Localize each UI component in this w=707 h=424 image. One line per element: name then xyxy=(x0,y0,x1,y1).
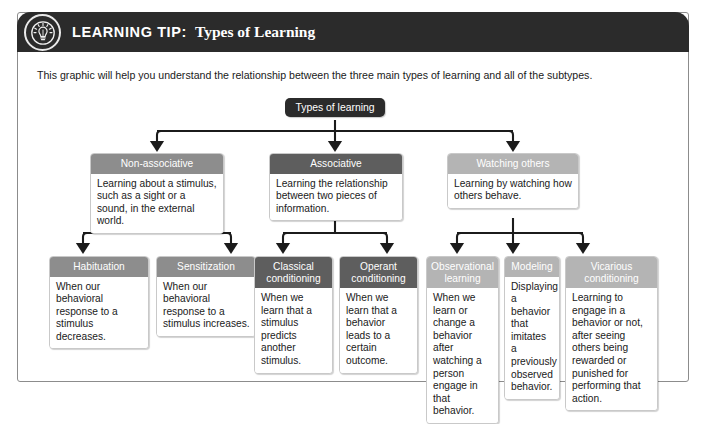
node-modeling-title: Modeling xyxy=(505,257,559,277)
node-operant-conditioning[interactable]: Operant conditioning When we learn that … xyxy=(339,256,418,374)
node-habituation-title: Habituation xyxy=(50,257,148,277)
types-of-learning-diagram: Types of learning Non-associative Learni… xyxy=(17,12,689,382)
node-associative-title: Associative xyxy=(270,154,402,174)
node-observational-learning-body: When we learn or change a behavior after… xyxy=(427,288,498,423)
node-modeling-body: Displaying a behavior that imitates a pr… xyxy=(505,277,559,399)
node-non-associative-title: Non-associative xyxy=(91,154,223,174)
node-watching-others-body: Learning by watching how others behave. xyxy=(448,174,578,208)
node-watching-others-title: Watching others xyxy=(448,154,578,174)
node-classical-conditioning-body: When we learn that a stimulus predicts a… xyxy=(255,288,332,373)
node-sensitization-body: When our behavioral response to a stimul… xyxy=(157,277,255,336)
node-non-associative-body: Learning about a stimulus, such as a sig… xyxy=(91,174,223,233)
node-observational-learning[interactable]: Observational learning When we learn or … xyxy=(426,256,499,424)
node-vicarious-conditioning-body: Learning to engage in a behavior or not,… xyxy=(566,288,657,410)
node-classical-conditioning-title: Classical conditioning xyxy=(255,257,332,288)
node-observational-learning-title: Observational learning xyxy=(427,257,498,288)
node-non-associative[interactable]: Non-associative Learning about a stimulu… xyxy=(90,153,224,234)
node-sensitization[interactable]: Sensitization When our behavioral respon… xyxy=(156,256,256,337)
node-habituation[interactable]: Habituation When our behavioral response… xyxy=(49,256,149,349)
node-operant-conditioning-body: When we learn that a behavior leads to a… xyxy=(340,288,417,373)
node-vicarious-conditioning[interactable]: Vicarious conditioning Learning to engag… xyxy=(565,256,658,411)
node-habituation-body: When our behavioral response to a stimul… xyxy=(50,277,148,349)
node-types-of-learning[interactable]: Types of learning xyxy=(285,98,385,117)
node-vicarious-conditioning-title: Vicarious conditioning xyxy=(566,257,657,288)
node-modeling[interactable]: Modeling Displaying a behavior that imit… xyxy=(504,256,560,400)
node-sensitization-title: Sensitization xyxy=(157,257,255,277)
node-operant-conditioning-title: Operant conditioning xyxy=(340,257,417,288)
node-associative[interactable]: Associative Learning the relationship be… xyxy=(269,153,403,221)
node-associative-body: Learning the relationship between two pi… xyxy=(270,174,402,221)
node-classical-conditioning[interactable]: Classical conditioning When we learn tha… xyxy=(254,256,333,374)
node-watching-others[interactable]: Watching others Learning by watching how… xyxy=(447,153,579,209)
